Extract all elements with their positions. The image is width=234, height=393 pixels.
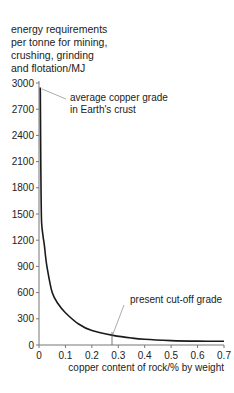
y-tick-label: 300: [17, 313, 34, 324]
x-tick-label: 0.2: [85, 350, 99, 361]
cutoff-leader-line: [113, 305, 124, 334]
y-tick-label: 1800: [12, 182, 35, 193]
y-tick-label: 2100: [12, 156, 35, 167]
x-tick-label: 0.1: [58, 350, 72, 361]
y-tick-label: 600: [17, 287, 34, 298]
cutoff-annotation: present cut-off grade: [130, 294, 223, 305]
y-axis-ticks: 03006009001200150018002100240027003000: [12, 78, 39, 351]
x-axis-label: copper content of rock/% by weight: [68, 362, 224, 373]
y-tick-label: 2400: [12, 130, 35, 141]
x-tick-label: 0: [36, 350, 42, 361]
y-tick-label: 2700: [12, 104, 35, 115]
x-tick-label: 0.7: [217, 350, 231, 361]
x-tick-label: 0.6: [191, 350, 205, 361]
axes: [39, 81, 224, 345]
y-tick-label: 3000: [12, 78, 35, 89]
crust-annotation-line2: in Earth's crust: [70, 104, 136, 115]
crust-annotation-line1: average copper grade: [70, 92, 168, 103]
x-tick-label: 0.5: [164, 350, 178, 361]
annotations: average copper grade in Earth's crust pr…: [42, 89, 223, 345]
crust-leader-line: [42, 89, 66, 99]
y-tick-label: 900: [17, 261, 34, 272]
x-tick-label: 0.4: [138, 350, 152, 361]
y-tick-label: 1200: [12, 235, 35, 246]
chart-canvas: 03006009001200150018002100240027003000 0…: [0, 0, 234, 393]
x-tick-label: 0.3: [111, 350, 125, 361]
x-axis-ticks: 00.10.20.30.40.50.60.7: [36, 345, 231, 361]
y-tick-label: 1500: [12, 209, 35, 220]
y-tick-label: 0: [28, 340, 34, 351]
